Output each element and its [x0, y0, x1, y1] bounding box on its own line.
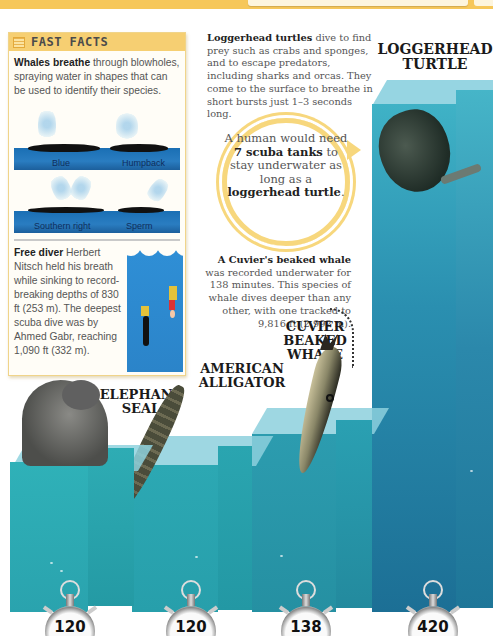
blue-whale-silhouette	[28, 144, 100, 152]
free-diver-fins-icon	[169, 286, 177, 300]
divers-illustration	[127, 246, 183, 372]
top-tab-corner	[474, 0, 493, 6]
tag-marker-icon	[326, 394, 334, 402]
stopwatch-stem	[302, 594, 310, 606]
cuvier-text-bold: A Cuvier's beaked whale	[218, 254, 351, 265]
minutes-value: 420	[408, 618, 458, 636]
callout-bold-2: loggerhead turtle	[227, 185, 340, 199]
sperm-spout-icon	[143, 174, 172, 206]
loggerhead-intro-bold: Loggerhead turtles	[207, 32, 312, 43]
callout-end: .	[341, 185, 345, 199]
stopwatch-cuvier-beaked-whale: 138	[271, 580, 341, 636]
title-line-2: TURTLE	[376, 57, 493, 72]
top-tab	[248, 0, 468, 6]
wave-shape	[157, 246, 177, 256]
bubble	[280, 555, 283, 557]
bar-side	[336, 420, 372, 608]
stopwatch-stem	[187, 594, 195, 606]
stopwatch-stem	[66, 594, 74, 606]
blue-spout-icon	[38, 108, 56, 140]
title-line-2: WHALE	[253, 348, 377, 362]
spout-label-humpback: Humpback	[122, 158, 165, 168]
stopwatch-american-alligator: 120	[156, 580, 226, 636]
title-american-alligator: AMERICAN ALLIGATOR	[192, 362, 292, 390]
title-line-1: LOGGERHEAD	[376, 42, 493, 57]
minutes-value: 138	[281, 618, 331, 636]
free-diver-head-icon	[170, 310, 175, 318]
loggerhead-intro-rest: dive to find prey such as crabs and spon…	[207, 32, 373, 119]
facts-divider	[14, 239, 180, 241]
free-diver-bold: Free diver	[14, 247, 63, 258]
fast-facts-panel: FAST FACTS Whales breathe through blowho…	[8, 32, 186, 376]
southern-right-spout-right-icon	[67, 172, 95, 205]
bubble	[470, 470, 473, 472]
title-line-2: ALLIGATOR	[192, 376, 292, 390]
stopwatch-loggerhead-turtle: 420	[398, 580, 468, 636]
minutes-value: 120	[45, 618, 95, 636]
free-diver-rest: Herbert Nitsch held his breath while sin…	[14, 247, 121, 356]
whales-breathe-text: Whales breathe through blowholes, sprayi…	[9, 51, 185, 98]
scuba-callout-text: A human would need 7 scuba tanks to stay…	[224, 132, 348, 200]
fast-facts-header: FAST FACTS	[9, 33, 185, 51]
humpback-silhouette	[110, 144, 168, 152]
bubble	[60, 570, 63, 572]
humpback-spout-icon	[116, 112, 138, 140]
southern-right-silhouette	[28, 207, 104, 213]
callout-arrow-icon	[347, 140, 361, 160]
bubble	[195, 556, 198, 558]
spout-label-southern-right: Southern right	[34, 221, 91, 231]
fast-facts-icon	[13, 37, 25, 48]
stopwatch-elephant-seal: 120	[35, 580, 105, 636]
callout-text-1: A human would need	[225, 131, 348, 145]
fast-facts-title: FAST FACTS	[31, 35, 108, 49]
whale-spout-diagram: Blue Humpback Southern right Sperm	[14, 108, 180, 233]
seal-head	[62, 380, 100, 410]
free-diver-icon	[169, 300, 175, 310]
spout-label-blue: Blue	[52, 158, 70, 168]
wave-shape	[175, 246, 183, 256]
title-loggerhead-turtle: LOGGERHEAD TURTLE	[376, 42, 493, 72]
scuba-diver-fins-icon	[141, 306, 149, 316]
loggerhead-intro-text: Loggerhead turtles dive to find prey suc…	[207, 32, 377, 121]
spout-label-sperm: Sperm	[126, 221, 153, 231]
bubble	[50, 562, 53, 564]
wave-shape	[139, 246, 159, 256]
sperm-whale-silhouette	[118, 207, 164, 213]
scuba-diver-icon	[143, 316, 149, 346]
minutes-value: 120	[166, 618, 216, 636]
title-line-1: CUVIER BEAKED	[253, 320, 377, 348]
title-line-1: AMERICAN	[192, 362, 292, 376]
title-cuvier-beaked-whale: CUVIER BEAKED WHALE	[253, 320, 377, 362]
stopwatch-stem	[429, 594, 437, 606]
whales-breathe-bold: Whales breathe	[14, 57, 90, 68]
callout-bold-1: 7 scuba tanks	[234, 145, 323, 159]
free-diver-text: Free diver Herbert Nitsch held his breat…	[14, 246, 126, 358]
